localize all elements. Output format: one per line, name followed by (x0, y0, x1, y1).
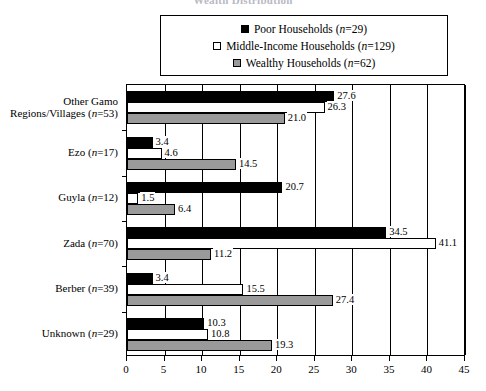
category-separator-tick (122, 266, 127, 267)
bar-value-label-mid-5: 10.8 (210, 328, 230, 339)
gridline-15 (240, 85, 241, 355)
x-tick-5 (164, 356, 165, 361)
bar-value-label-mid-0: 26.3 (327, 101, 347, 112)
legend-item-middle-income: Middle-Income Households (n=129) (161, 37, 447, 54)
x-tick-40 (426, 356, 427, 361)
bar-wealthy-0 (127, 113, 285, 124)
legend-label-middle-income: Middle-Income Households (n=129) (226, 40, 395, 52)
x-tick-45 (464, 356, 465, 361)
x-tick-20 (276, 356, 277, 361)
category-separator-tick (122, 130, 127, 131)
x-tick-label-10: 10 (196, 363, 207, 375)
x-tick-label-15: 15 (233, 363, 244, 375)
bar-poor-4 (127, 273, 153, 284)
x-tick-label-30: 30 (346, 363, 357, 375)
bar-poor-3 (127, 227, 386, 238)
x-tick-25 (314, 356, 315, 361)
bar-mid-3 (127, 238, 436, 249)
bar-wealthy-4 (127, 295, 333, 306)
legend-item-poor: Poor Households (n=29) (161, 20, 447, 37)
x-tick-35 (389, 356, 390, 361)
category-separator-tick (122, 312, 127, 313)
bar-poor-5 (127, 318, 204, 329)
bar-wealthy-2 (127, 204, 175, 215)
x-tick-label-0: 0 (123, 363, 129, 375)
gridline-5 (165, 85, 166, 355)
x-tick-label-20: 20 (271, 363, 282, 375)
bar-value-label-wealthy-5: 19.3 (274, 339, 294, 350)
bar-wealthy-3 (127, 249, 211, 260)
gridline-35 (390, 85, 391, 355)
legend-swatch-wealthy-icon (233, 59, 241, 67)
bar-value-label-poor-2: 20.7 (284, 181, 304, 192)
bar-mid-5 (127, 329, 208, 340)
category-separator-tick (122, 176, 127, 177)
x-tick-label-5: 5 (161, 363, 167, 375)
bar-value-label-poor-1: 3.4 (155, 136, 170, 147)
category-separator-tick (122, 221, 127, 222)
bar-poor-0 (127, 91, 334, 102)
bar-wealthy-5 (127, 340, 272, 351)
y-category-label-2: Guyla (n=12) (58, 191, 118, 203)
gridline-45 (465, 85, 466, 355)
y-axis-category-labels: Other GamoRegions/Villages (n=53)Ezo (n=… (0, 84, 122, 356)
x-tick-label-25: 25 (308, 363, 319, 375)
x-tick-label-35: 35 (383, 363, 394, 375)
bar-value-label-mid-4: 15.5 (245, 283, 265, 294)
bar-value-label-poor-0: 27.6 (336, 90, 356, 101)
y-category-label-1: Ezo (n=17) (68, 146, 118, 158)
bar-value-label-poor-4: 3.4 (155, 272, 170, 283)
bar-value-label-wealthy-0: 21.0 (287, 112, 307, 123)
x-tick-label-45: 45 (459, 363, 470, 375)
bar-value-label-mid-3: 41.1 (438, 237, 458, 248)
y-category-label-4: Berber (n=39) (55, 282, 118, 294)
bar-wealthy-1 (127, 159, 236, 170)
x-tick-0 (126, 356, 127, 361)
chart-title: Wealth Distribution (0, 0, 486, 6)
x-axis: 051015202530354045 (126, 356, 465, 386)
bar-value-label-mid-1: 4.6 (164, 147, 179, 158)
bar-mid-4 (127, 284, 243, 295)
bar-value-label-wealthy-1: 14.5 (238, 158, 258, 169)
y-category-label-0: Other GamoRegions/Villages (n=53) (10, 95, 118, 119)
bar-value-label-poor-5: 10.3 (206, 317, 226, 328)
x-tick-label-40: 40 (421, 363, 432, 375)
gridline-20 (277, 85, 278, 355)
bar-mid-1 (127, 148, 162, 159)
gridline-30 (352, 85, 353, 355)
gridline-25 (315, 85, 316, 355)
chart-legend: Poor Households (n=29) Middle-Income Hou… (160, 15, 448, 76)
legend-label-wealthy: Wealthy Households (n=62) (246, 57, 376, 69)
x-tick-10 (201, 356, 202, 361)
bar-value-label-mid-2: 1.5 (140, 192, 155, 203)
bar-mid-2 (127, 193, 138, 204)
plot-area: 27.626.321.03.44.614.520.71.56.434.541.1… (126, 84, 465, 356)
y-category-label-5: Unknown (n=29) (42, 327, 118, 339)
legend-swatch-middle-icon (213, 42, 221, 50)
y-category-label-3: Zada (n=70) (63, 237, 118, 249)
gridline-40 (427, 85, 428, 355)
legend-item-wealthy: Wealthy Households (n=62) (161, 54, 447, 71)
bar-poor-1 (127, 137, 153, 148)
bar-value-label-wealthy-3: 11.2 (213, 248, 233, 259)
bar-value-label-poor-3: 34.5 (388, 226, 408, 237)
x-tick-15 (239, 356, 240, 361)
legend-label-poor: Poor Households (n=29) (254, 23, 367, 35)
bar-value-label-wealthy-4: 27.4 (335, 294, 355, 305)
bar-value-label-wealthy-2: 6.4 (177, 203, 192, 214)
gridline-10 (202, 85, 203, 355)
x-tick-30 (351, 356, 352, 361)
legend-swatch-poor-icon (241, 25, 249, 33)
